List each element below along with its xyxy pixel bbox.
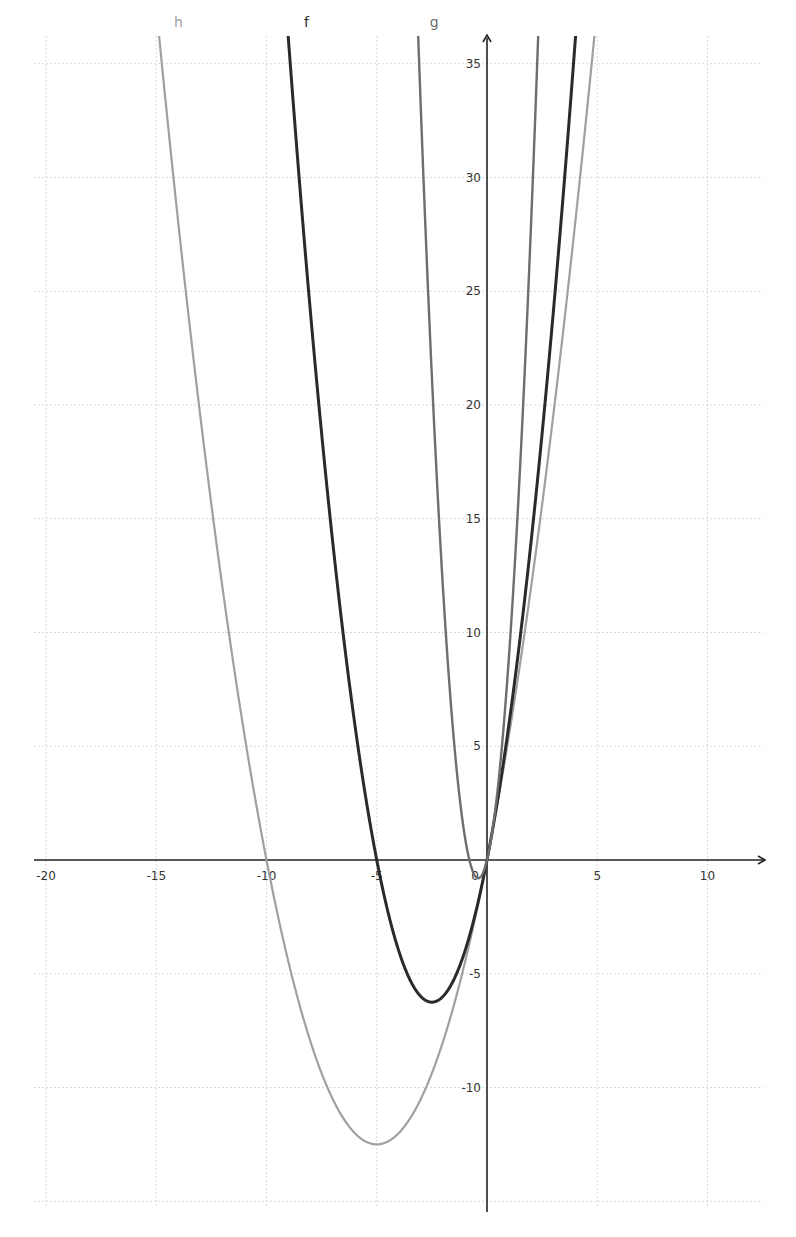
y-tick-label: 20 bbox=[466, 398, 481, 412]
y-tick-label: 10 bbox=[466, 626, 481, 640]
x-tick-label: 5 bbox=[593, 869, 601, 883]
x-tick-label: -10 bbox=[257, 869, 277, 883]
x-tick-labels: -20-15-10-50510 bbox=[36, 869, 715, 883]
y-tick-label: 35 bbox=[466, 57, 481, 71]
y-tick-label: 30 bbox=[466, 171, 481, 185]
y-tick-label: 25 bbox=[466, 284, 481, 298]
curve-label-g: g bbox=[430, 14, 439, 30]
x-tick-label: -15 bbox=[146, 869, 166, 883]
y-tick-label: -10 bbox=[461, 1081, 481, 1095]
y-tick-label: 5 bbox=[473, 739, 481, 753]
y-tick-label: -5 bbox=[469, 967, 481, 981]
curve-label-f: f bbox=[304, 14, 310, 30]
x-tick-label: -20 bbox=[36, 869, 56, 883]
function-graph: -20-15-10-50510 -10-55101520253035 hfg bbox=[0, 0, 796, 1237]
y-tick-label: 15 bbox=[466, 512, 481, 526]
axes bbox=[34, 35, 765, 1212]
grid-lines bbox=[34, 36, 763, 1206]
curve-label-h: h bbox=[174, 14, 183, 30]
curve-labels: hfg bbox=[174, 14, 439, 30]
x-tick-label: 10 bbox=[700, 869, 715, 883]
